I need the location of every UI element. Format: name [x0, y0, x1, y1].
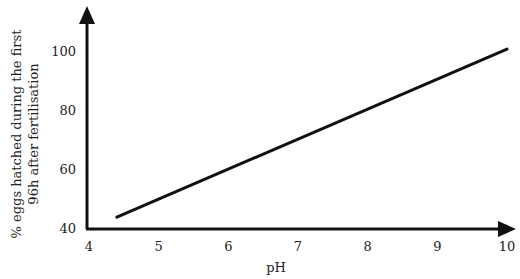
y-tick-label: 80 — [59, 103, 76, 118]
y-tick-label: 60 — [59, 162, 76, 177]
axes — [79, 6, 516, 237]
x-tick-label: 8 — [364, 239, 372, 254]
x-tick-label: 7 — [294, 239, 302, 254]
x-tick-label: 5 — [155, 239, 163, 254]
y-axis-label-line1: % eggs hatched during the first — [9, 29, 24, 239]
y-axis-label-line2: 96h after fertilisation — [26, 63, 41, 205]
series — [117, 49, 507, 217]
y-axis-arrowhead — [79, 6, 95, 24]
y-tick-label: 40 — [59, 221, 76, 236]
x-axis-label: pH — [266, 260, 286, 275]
series-line — [117, 49, 507, 217]
x-tick-label: 9 — [433, 239, 441, 254]
y-tick-label: 100 — [51, 44, 76, 59]
x-tick-label: 6 — [224, 239, 232, 254]
chart: 45678910406080100 pH % eggs hatched duri… — [0, 0, 520, 279]
x-tick-label: 10 — [499, 239, 516, 254]
x-axis-arrowhead — [498, 221, 516, 237]
x-tick-label: 4 — [85, 239, 93, 254]
